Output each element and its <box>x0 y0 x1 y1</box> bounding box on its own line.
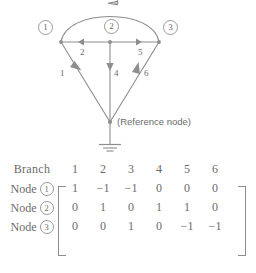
matrix-col-header-1: 1 <box>61 160 89 179</box>
matrix-cell-r3c4: 0 <box>145 217 173 236</box>
branch-label-1: 1 <box>60 69 65 78</box>
incidence-matrix: Branch 1 2 3 4 5 6 Node1 1 −1 −1 0 0 <box>0 160 256 273</box>
branch-label-6: 6 <box>144 69 149 78</box>
matrix-cell-r1c1: 1 <box>61 179 89 198</box>
matrix-cell-r1c6: 0 <box>201 179 229 198</box>
branch-6-arrowhead <box>132 62 140 74</box>
branch-5-edge <box>110 39 159 46</box>
matrix-corner-header: Branch <box>3 160 61 179</box>
row-word-node-2: Node <box>11 200 37 214</box>
matrix-cell-r3c6: −1 <box>201 217 229 236</box>
branch-4-edge <box>106 42 113 122</box>
matrix-cell-r3c1: 0 <box>61 217 89 236</box>
matrix-row-node-1: Node1 1 −1 −1 0 0 0 <box>3 179 229 198</box>
node-2-vertex <box>108 40 112 44</box>
graph-node-badge-1: 1 <box>38 20 53 35</box>
matrix-row-node-3: Node3 0 0 1 0 −1 −1 <box>3 217 229 236</box>
matrix-row-header-1: Node1 <box>3 179 61 198</box>
branch-label-3: 3 <box>114 0 119 6</box>
matrix-cell-r1c5: 0 <box>173 179 201 198</box>
row-word-node-1: Node <box>11 181 37 195</box>
matrix-right-bracket <box>238 186 246 256</box>
row-node-badge-1: 1 <box>40 182 54 196</box>
branch-1-arrowhead <box>70 61 82 71</box>
row-node-badge-2: 2 <box>40 201 54 215</box>
matrix-cell-r2c4: 1 <box>145 198 173 217</box>
matrix-col-header-5: 5 <box>173 160 201 179</box>
matrix-col-header-4: 4 <box>145 160 173 179</box>
matrix-cell-r2c6: 0 <box>201 198 229 217</box>
node-3-vertex <box>157 40 161 44</box>
branch-label-5: 5 <box>138 48 143 57</box>
matrix-table: Branch 1 2 3 4 5 6 Node1 1 −1 −1 0 0 <box>3 160 229 236</box>
row-node-badge-3: 3 <box>40 220 54 234</box>
matrix-row-node-2: Node2 0 1 0 1 1 0 <box>3 198 229 217</box>
reference-node-label: (Reference node) <box>117 117 191 127</box>
branch-1-edge <box>61 42 110 122</box>
matrix-col-header-6: 6 <box>201 160 229 179</box>
matrix-header-row: Branch 1 2 3 4 5 6 <box>3 160 229 179</box>
matrix-cell-r2c5: 1 <box>173 198 201 217</box>
graph-node-badge-3: 3 <box>163 20 178 35</box>
branch-5-arrowhead <box>136 39 142 46</box>
matrix-cell-r1c2: −1 <box>89 179 117 198</box>
branch-2-edge <box>61 39 110 46</box>
matrix-cell-r3c3: 1 <box>117 217 145 236</box>
matrix-cell-r2c1: 0 <box>61 198 89 217</box>
matrix-col-header-3: 3 <box>117 160 145 179</box>
row-word-node-3: Node <box>11 219 37 233</box>
graph-node-badge-2: 2 <box>104 19 119 34</box>
branch-2-arrowhead <box>78 39 84 46</box>
branch-4-arrowhead <box>106 63 113 71</box>
matrix-cell-r2c3: 0 <box>117 198 145 217</box>
matrix-row-header-2: Node2 <box>3 198 61 217</box>
matrix-cell-r1c3: −1 <box>117 179 145 198</box>
matrix-cell-r2c2: 1 <box>89 198 117 217</box>
branch-label-2: 2 <box>80 48 85 57</box>
branch-6-edge <box>110 42 159 122</box>
matrix-cell-r3c2: 0 <box>89 217 117 236</box>
node-1-vertex <box>59 40 63 44</box>
branch-label-4: 4 <box>114 69 119 78</box>
matrix-col-header-2: 2 <box>89 160 117 179</box>
incidence-matrix-figure: 1 2 3 3 2 5 1 4 6 (Reference node) Branc… <box>0 0 256 273</box>
matrix-row-header-3: Node3 <box>3 217 61 236</box>
graph-diagram: 1 2 3 3 2 5 1 4 6 (Reference node) <box>0 0 256 160</box>
matrix-cell-r1c4: 0 <box>145 179 173 198</box>
matrix-cell-r3c5: −1 <box>173 217 201 236</box>
